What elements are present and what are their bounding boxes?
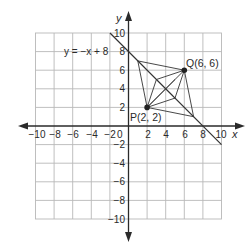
x-axis-left-arrow-icon — [18, 123, 28, 130]
svg-text:6: 6 — [119, 65, 125, 76]
svg-text:8: 8 — [119, 46, 125, 57]
svg-text:2: 2 — [145, 129, 151, 140]
svg-text:−10: −10 — [29, 129, 46, 140]
x-axis-label: x — [231, 128, 238, 140]
point-p-label: P(2, 2) — [130, 111, 162, 123]
line-equation-label: y = −x + 8 — [64, 46, 109, 57]
svg-text:6: 6 — [182, 129, 188, 140]
svg-text:2: 2 — [119, 102, 125, 113]
svg-text:4: 4 — [163, 129, 169, 140]
svg-text:−6: −6 — [114, 176, 126, 187]
point-q-label: Q(6, 6) — [186, 57, 219, 69]
svg-text:−2: −2 — [114, 139, 126, 150]
svg-text:10: 10 — [215, 129, 227, 140]
x-tick-labels: −10 −8 −6 −4 −2 2 4 6 8 10 — [29, 129, 227, 140]
svg-text:4: 4 — [119, 83, 125, 94]
axes — [24, 16, 240, 236]
coordinate-plane-figure: Q(6, 6) P(2, 2) y = −x + 8 x y −10 −8 −6… — [0, 0, 252, 252]
svg-text:−8: −8 — [114, 195, 126, 206]
point-p — [144, 105, 150, 111]
svg-text:−4: −4 — [86, 129, 98, 140]
svg-text:8: 8 — [200, 129, 206, 140]
y-axis-up-arrow-icon — [125, 11, 132, 21]
svg-text:−4: −4 — [114, 158, 126, 169]
svg-text:−10: −10 — [108, 214, 125, 225]
svg-text:10: 10 — [114, 28, 126, 39]
svg-text:−6: −6 — [67, 129, 79, 140]
y-axis-label: y — [115, 12, 123, 24]
svg-text:−8: −8 — [49, 129, 61, 140]
y-axis-down-arrow-icon — [125, 232, 132, 242]
